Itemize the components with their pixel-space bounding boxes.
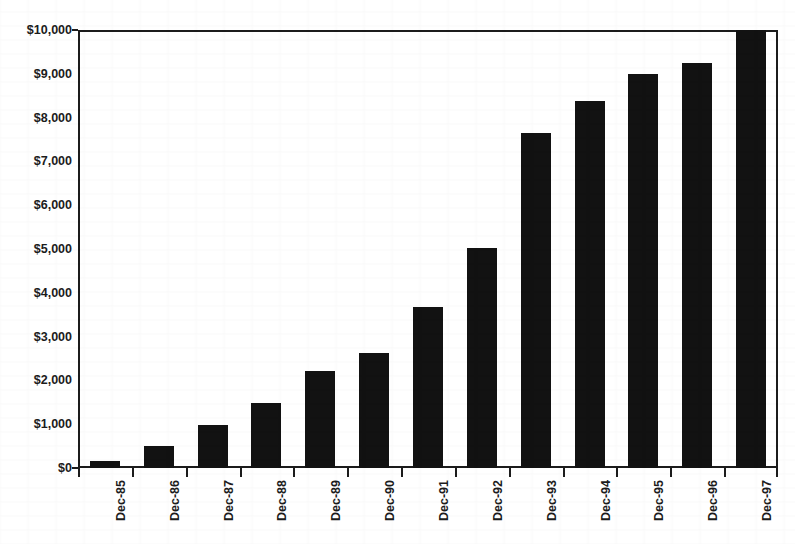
x-axis-tick (347, 468, 349, 477)
y-axis-tick-label: $2,000 (0, 373, 72, 387)
x-axis-tick (509, 468, 511, 477)
bar[interactable] (359, 353, 389, 468)
y-axis-tick-label: $0 (0, 461, 72, 475)
y-axis-tick-label: $9,000 (0, 67, 72, 81)
x-axis-tick-label: Dec-89 (328, 478, 344, 544)
x-axis-tick (776, 468, 778, 477)
y-axis: $0$1,000$2,000$3,000$4,000$5,000$6,000$7… (0, 30, 72, 468)
x-axis-tick (616, 468, 618, 477)
bar[interactable] (575, 101, 605, 468)
bar[interactable] (628, 74, 658, 468)
x-axis: Dec-85Dec-86Dec-87Dec-88Dec-89Dec-90Dec-… (78, 478, 778, 544)
x-axis-tick (293, 468, 295, 477)
bar-slot (132, 30, 186, 468)
x-axis-tick-label: Dec-91 (436, 478, 452, 544)
bar-slot (240, 30, 294, 468)
x-axis-tick (724, 468, 726, 477)
bar-slot (724, 30, 778, 468)
x-axis-tick-label: Dec-87 (221, 478, 237, 544)
bar[interactable] (144, 446, 174, 468)
x-axis-tick-label: Dec-86 (167, 478, 183, 544)
y-axis-tick-label: $8,000 (0, 111, 72, 125)
bar-slot (347, 30, 401, 468)
x-axis-tick-label: Dec-85 (113, 478, 129, 544)
bar[interactable] (251, 403, 281, 468)
bar-slot (563, 30, 617, 468)
bar[interactable] (90, 461, 120, 468)
x-axis-tick (455, 468, 457, 477)
y-axis-tick-label: $7,000 (0, 154, 72, 168)
bar[interactable] (682, 63, 712, 468)
bar-slot (78, 30, 132, 468)
bar-slot (509, 30, 563, 468)
x-axis-tick-label: Dec-94 (598, 478, 614, 544)
x-axis-tick-label: Dec-93 (544, 478, 560, 544)
y-axis-tick-label: $6,000 (0, 198, 72, 212)
x-axis-ticks (78, 468, 778, 477)
x-axis-tick (186, 468, 188, 477)
bar[interactable] (736, 30, 766, 468)
bar[interactable] (521, 133, 551, 468)
bar[interactable] (198, 425, 228, 468)
bar-slot (670, 30, 724, 468)
bar[interactable] (305, 371, 335, 468)
chart-title (0, 0, 795, 6)
bar-chart: $0$1,000$2,000$3,000$4,000$5,000$6,000$7… (0, 0, 795, 544)
x-axis-tick (563, 468, 565, 477)
x-axis-tick-label: Dec-88 (274, 478, 290, 544)
x-axis-tick-label: Dec-97 (759, 478, 775, 544)
bar[interactable] (467, 248, 497, 468)
bar-slot (455, 30, 509, 468)
bar-slot (186, 30, 240, 468)
y-axis-tick-label: $1,000 (0, 417, 72, 431)
x-axis-tick (78, 468, 80, 477)
x-axis-tick-label: Dec-92 (490, 478, 506, 544)
y-axis-tick-label: $4,000 (0, 286, 72, 300)
bar-slot (293, 30, 347, 468)
bar[interactable] (413, 307, 443, 468)
x-axis-tick-label: Dec-95 (651, 478, 667, 544)
x-axis-tick (132, 468, 134, 477)
y-axis-tick-label: $3,000 (0, 330, 72, 344)
x-axis-tick (401, 468, 403, 477)
bars-container (78, 30, 778, 468)
bar-slot (401, 30, 455, 468)
y-axis-tick-label: $10,000 (0, 23, 72, 37)
x-axis-tick (240, 468, 242, 477)
x-axis-tick-label: Dec-90 (382, 478, 398, 544)
x-axis-tick (670, 468, 672, 477)
x-axis-tick-label: Dec-96 (705, 478, 721, 544)
bar-slot (616, 30, 670, 468)
y-axis-tick-label: $5,000 (0, 242, 72, 256)
